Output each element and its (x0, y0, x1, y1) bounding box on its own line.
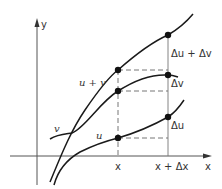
label-dv: Δv (171, 78, 184, 89)
label-du: Δu (171, 120, 184, 131)
x-axis-label: x (205, 161, 211, 172)
curve-u-plus-v (50, 14, 193, 182)
point-uplusv-at-x (115, 67, 121, 73)
label-u: u (96, 130, 102, 141)
point-v-at-x (115, 88, 121, 94)
axes (10, 18, 212, 185)
point-uplusv-at-x-plus-dx (165, 32, 171, 38)
y-axis-label: y (41, 19, 47, 30)
label-du-plus-dv: Δu + Δv (171, 48, 212, 59)
curve-v (50, 75, 178, 139)
guide-lines (118, 70, 168, 156)
x-axis-arrow-icon (203, 154, 212, 159)
label-u-plus-v: u + v (79, 77, 106, 88)
curves (50, 14, 193, 185)
curve-u (54, 100, 184, 185)
tick-x: x (115, 161, 121, 172)
label-v: v (54, 123, 60, 134)
diagram-canvas: y x x x + Δx u + v v u Δu + Δv Δv Δu (0, 0, 222, 189)
tick-x-plus-dx: x + Δx (155, 161, 188, 172)
point-u-at-x (115, 135, 121, 141)
y-axis-arrow-icon (35, 18, 40, 27)
points (115, 32, 171, 141)
